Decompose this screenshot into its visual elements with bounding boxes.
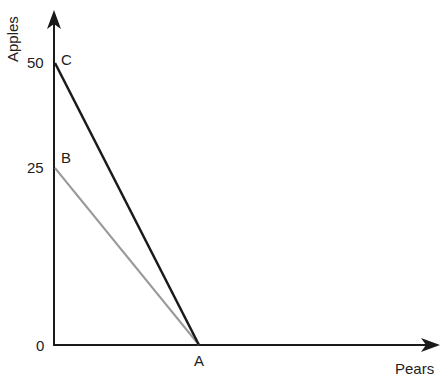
x-axis-label: Pears	[395, 360, 434, 377]
line-ba	[55, 168, 199, 345]
y-tick-25: 25	[27, 159, 44, 176]
point-a-label: A	[194, 352, 204, 369]
y-tick-0: 0	[36, 337, 44, 354]
y-tick-50: 50	[27, 54, 44, 71]
point-b-label: B	[61, 149, 71, 166]
point-c-label: C	[61, 51, 72, 68]
line-ca	[55, 63, 199, 345]
y-axis-label: Apples	[4, 16, 21, 62]
chart-canvas: Apples Pears 50 25 0 C B A	[0, 0, 444, 378]
